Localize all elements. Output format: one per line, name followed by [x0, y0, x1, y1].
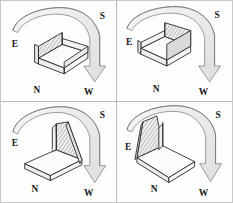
panel-4-drawing: E S N W — [117, 102, 233, 203]
compass-label-south: S — [100, 11, 105, 21]
compass-label-north: N — [150, 183, 157, 193]
compass-label-north: N — [34, 85, 41, 95]
compass-label-east: E — [125, 37, 131, 47]
compass-label-south: S — [214, 10, 219, 20]
panel-top-left: E S N W — [1, 1, 117, 102]
panel-bottom-left: E S N W — [1, 102, 117, 203]
compass-label-south: S — [215, 109, 220, 119]
compass-label-west: W — [198, 187, 208, 197]
open-box — [35, 33, 88, 74]
compass-label-east: E — [12, 137, 18, 147]
compass-label-west: W — [84, 87, 94, 97]
open-box — [134, 115, 194, 182]
open-box — [25, 121, 82, 180]
compass-label-west: W — [198, 87, 208, 97]
panel-3-drawing: E S N W — [1, 102, 116, 203]
compass-label-south: S — [100, 109, 105, 119]
compass-label-north: N — [152, 84, 159, 94]
compass-label-west: W — [84, 187, 94, 197]
panel-bottom-right: E S N W — [117, 102, 233, 203]
open-box — [137, 23, 190, 66]
rotation-figure: E S N W — [0, 0, 233, 203]
compass-label-east: E — [124, 141, 130, 151]
compass-label-north: N — [32, 183, 39, 193]
panel-top-right: E S N W — [117, 1, 233, 102]
panel-2-drawing: E S N W — [117, 1, 233, 101]
panel-1-drawing: E S N W — [1, 1, 116, 101]
panel-grid: E S N W — [1, 1, 232, 202]
compass-label-east: E — [12, 39, 18, 49]
